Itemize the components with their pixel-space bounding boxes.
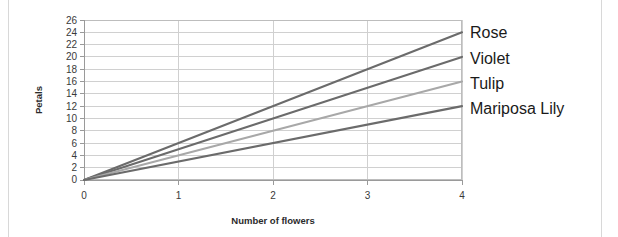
y-tick-label-24: 24 (66, 27, 78, 38)
y-tick-label-18: 18 (66, 64, 78, 75)
chart-screenshot: 26 24 22 20 18 16 14 12 10 8 6 4 2 0 0 (0, 0, 618, 237)
x-tick-label-4: 4 (459, 190, 465, 201)
x-axis-title: Number of flowers (231, 215, 314, 226)
y-tick-label-22: 22 (66, 39, 78, 50)
y-tick-label-12: 12 (66, 101, 78, 112)
y-axis-tick-labels: 26 24 22 20 18 16 14 12 10 8 6 4 2 0 (66, 15, 78, 186)
y-tick-label-8: 8 (71, 125, 77, 136)
y-tick-label-20: 20 (66, 51, 78, 62)
x-tick-label-0: 0 (81, 190, 87, 201)
y-tick-label-10: 10 (66, 113, 78, 124)
x-tick-label-3: 3 (365, 190, 371, 201)
x-tick-label-1: 1 (176, 190, 182, 201)
y-tick-label-16: 16 (66, 76, 78, 87)
vertical-gridlines (84, 20, 462, 180)
y-tick-label-6: 6 (71, 138, 77, 149)
legend-label-tulip: Tulip (470, 75, 504, 92)
y-tick-label-14: 14 (66, 88, 78, 99)
x-axis (84, 180, 462, 185)
legend-label-violet: Violet (470, 50, 510, 67)
y-tick-label-4: 4 (71, 150, 77, 161)
legend-label-mariposa-lily: Mariposa Lily (470, 100, 564, 117)
y-tick-label-2: 2 (71, 162, 77, 173)
y-axis-title: Petals (33, 86, 44, 114)
petals-vs-flowers-line-chart: 26 24 22 20 18 16 14 12 10 8 6 4 2 0 0 (0, 0, 618, 237)
legend-label-rose: Rose (470, 24, 507, 41)
y-tick-label-0: 0 (71, 174, 77, 185)
x-axis-tick-labels: 0 1 2 3 4 (81, 190, 465, 201)
y-tick-label-26: 26 (66, 15, 78, 26)
x-tick-label-2: 2 (270, 190, 276, 201)
